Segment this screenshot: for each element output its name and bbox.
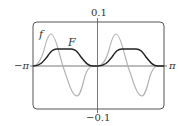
- series-F-left: [33, 49, 98, 66]
- x-tick-left: −π: [14, 61, 29, 71]
- y-tick-top: 0.1: [91, 8, 107, 18]
- y-tick-bottom: −0.1: [86, 113, 110, 123]
- series-F-right: [98, 49, 165, 66]
- series-f-label: f: [39, 29, 43, 40]
- x-tick-right: π: [169, 61, 176, 71]
- series-F-label: F: [68, 37, 76, 48]
